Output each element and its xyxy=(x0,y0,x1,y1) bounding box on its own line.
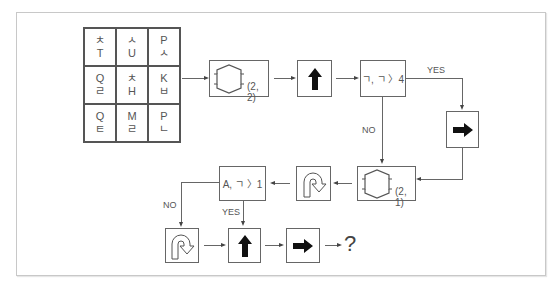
up-step-box-2 xyxy=(228,228,261,263)
grid-cell: ㅊH xyxy=(116,66,148,104)
grid-cell: Pㅅ xyxy=(148,28,180,66)
swap-box-2: (2, 1) xyxy=(357,166,416,201)
swap-param: (2, 1) xyxy=(395,186,415,208)
arrowhead xyxy=(333,181,338,185)
u-turn-icon xyxy=(168,232,196,260)
arrowhead xyxy=(270,181,275,185)
yes-label: YES xyxy=(427,65,445,75)
connector xyxy=(204,245,221,246)
grid-cell: Pㄴ xyxy=(148,104,180,142)
condition-box-2: A, ㄱ 〉1 xyxy=(219,166,266,201)
up-step-box-1 xyxy=(297,60,332,97)
right-arrow-icon xyxy=(453,123,473,137)
swap-param: (2, 2) xyxy=(247,81,268,103)
swap-box-1: (2, 2) xyxy=(209,60,269,97)
connector xyxy=(274,78,291,79)
connector xyxy=(462,148,463,179)
result-question-mark: ? xyxy=(344,231,356,257)
yes-label: YES xyxy=(222,207,240,217)
connector xyxy=(181,182,219,183)
connector xyxy=(338,183,352,184)
right-step-box-1 xyxy=(446,111,479,148)
arrowhead xyxy=(279,243,284,247)
grid-cell: ㅊT xyxy=(84,28,116,66)
u-turn-box-2 xyxy=(165,228,199,263)
grid-cell: Qㅌ xyxy=(84,104,116,142)
up-arrow-icon xyxy=(238,235,252,257)
connector xyxy=(243,201,244,221)
no-label: NO xyxy=(362,125,376,135)
letter-grid: ㅊT ㅅU Pㅅ Qㄹ ㅊH Kㅂ Qㅌ Mㄹ Pㄴ xyxy=(83,27,181,143)
condition-text: ㄱ, ㄱ 〉4 xyxy=(362,71,404,86)
grid-cell: Mㄹ xyxy=(116,104,148,142)
connector xyxy=(265,245,279,246)
connector xyxy=(181,182,182,222)
arrowhead xyxy=(354,76,359,80)
arrowhead xyxy=(241,221,245,226)
right-arrow-icon xyxy=(293,239,313,253)
arrowhead xyxy=(416,177,421,181)
connector xyxy=(406,78,462,79)
condition-text: A, ㄱ 〉1 xyxy=(223,176,263,191)
connector xyxy=(421,179,463,180)
connector xyxy=(462,78,463,105)
arrowhead xyxy=(221,243,226,247)
up-arrow-icon xyxy=(308,68,322,90)
arrowhead xyxy=(380,159,384,164)
arrowhead xyxy=(179,222,183,227)
no-label: NO xyxy=(163,200,177,210)
connector xyxy=(325,245,337,246)
connector xyxy=(336,78,354,79)
connector xyxy=(382,97,383,159)
arrowhead xyxy=(460,105,464,110)
connector xyxy=(275,183,290,184)
right-step-box-2 xyxy=(286,228,320,263)
u-turn-box-1 xyxy=(296,166,331,201)
u-turn-icon xyxy=(300,170,328,198)
connector xyxy=(182,78,204,79)
arrowhead xyxy=(337,243,342,247)
grid-cell: Qㄹ xyxy=(84,66,116,104)
arrowhead xyxy=(291,76,296,80)
grid-cell: ㅅU xyxy=(116,28,148,66)
condition-box-1: ㄱ, ㄱ 〉4 xyxy=(360,60,406,97)
grid-cell: Kㅂ xyxy=(148,66,180,104)
